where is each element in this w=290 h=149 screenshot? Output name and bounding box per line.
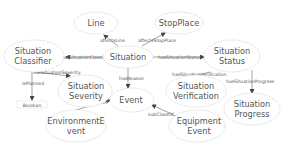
edge-affects-line: affectsLine: [100, 35, 125, 46]
edge-affects-stopplace: affectsStopPlace: [138, 33, 176, 46]
svg-text:Situation: Situation: [68, 81, 105, 91]
svg-text:Progress: Progress: [235, 109, 270, 119]
node-equipment-event[interactable]: Equipment Event: [169, 110, 225, 142]
svg-text:affectsStopPlace: affectsStopPlace: [138, 38, 176, 43]
svg-text:Severity: Severity: [69, 91, 103, 101]
svg-text:affectsLine: affectsLine: [100, 38, 125, 43]
svg-text:hasSituationStatus: hasSituationStatus: [158, 55, 202, 60]
svg-text:Boolean: Boolean: [23, 103, 42, 108]
node-situation-classifier[interactable]: Situation Classifier: [4, 40, 64, 72]
edge-has-situation-progress: hasSituationProgress: [226, 70, 275, 93]
node-situation-verification[interactable]: Situation Verification: [166, 75, 226, 107]
node-situation-severity[interactable]: Situation Severity: [58, 75, 112, 107]
svg-text:Situation: Situation: [110, 52, 147, 62]
svg-text:Equipment: Equipment: [177, 116, 222, 126]
svg-text:hasReason: hasReason: [119, 76, 144, 81]
edge-is-planned: isPlanned: [22, 72, 44, 100]
edge-has-situation-status: hasSituationStatus: [153, 55, 204, 60]
svg-text:Event: Event: [187, 126, 211, 136]
node-situation-progress[interactable]: Situation Progress: [224, 93, 280, 125]
node-situation[interactable]: Situation: [103, 46, 153, 68]
node-event[interactable]: Event: [110, 88, 154, 112]
svg-text:Verification: Verification: [173, 91, 219, 101]
svg-text:StopPlace: StopPlace: [159, 18, 199, 28]
literal-boolean[interactable]: Boolean: [17, 101, 47, 108]
svg-text:vent: vent: [67, 126, 86, 136]
svg-text:EnvironmentE: EnvironmentE: [47, 116, 104, 126]
svg-text:subClassOf: subClassOf: [148, 112, 174, 117]
node-line[interactable]: Line: [74, 12, 118, 34]
edge-has-reason: hasReason: [119, 68, 144, 88]
node-stopplace[interactable]: StopPlace: [155, 12, 203, 34]
svg-text:Situation: Situation: [234, 99, 271, 109]
svg-text:Status: Status: [219, 56, 245, 66]
svg-text:Situation: Situation: [15, 46, 52, 56]
svg-text:Classifier: Classifier: [14, 56, 52, 66]
svg-text:Event: Event: [119, 95, 143, 105]
svg-text:Line: Line: [87, 18, 104, 28]
svg-text:Situation: Situation: [214, 46, 251, 56]
svg-text:hasSituationProgress: hasSituationProgress: [226, 79, 275, 84]
node-situation-status[interactable]: Situation Status: [204, 40, 260, 72]
svg-text:Situation: Situation: [178, 81, 215, 91]
svg-text:isPlanned: isPlanned: [22, 81, 44, 86]
ontology-diagram: affectsLine affectsStopPlace hasSituatio…: [0, 0, 290, 149]
node-environment-event[interactable]: EnvironmentE vent: [46, 110, 106, 142]
